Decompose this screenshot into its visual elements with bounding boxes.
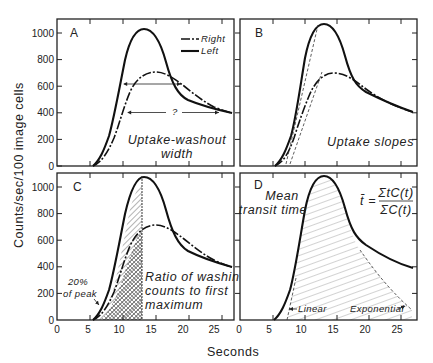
- x-tick-label: 10: [295, 324, 307, 335]
- y-tick-label: 400: [37, 261, 54, 272]
- legend: Right Left: [181, 33, 225, 56]
- y-tick-label: 1000: [32, 182, 55, 193]
- y-tick-label: 1000: [32, 28, 55, 39]
- y-tick-label: 600: [37, 235, 54, 246]
- panel-d-label: D: [254, 178, 263, 192]
- figure-canvas: Counts/sec/100 image cells Seconds 0 200…: [0, 0, 433, 363]
- panel-b-caption: Uptake slopes: [327, 135, 414, 149]
- mean-transit-formula: t̄ = ΣtC(t) ΣC(t): [360, 186, 414, 217]
- panel-b: B Uptake slopes: [235, 19, 417, 166]
- panel-a-label: A: [70, 26, 78, 40]
- y-tick-label: 800: [37, 54, 54, 65]
- x-tick-label: 5: [266, 324, 272, 335]
- formula-numerator: ΣtC(t): [377, 186, 413, 200]
- pct-peak-label: of peak: [63, 288, 98, 299]
- x-tick-label: 20: [359, 324, 371, 335]
- panel-d-caption: transit time: [239, 203, 307, 217]
- y-tick-label: 200: [37, 134, 54, 145]
- formula-denominator: ΣC(t): [379, 203, 411, 217]
- y-tick-label: 400: [37, 107, 54, 118]
- unknown-width-mark: ?: [172, 106, 178, 117]
- panel-d-caption: Mean: [265, 189, 299, 203]
- panel-a: 0 200 400 600 800 1000 A ? Right: [32, 19, 234, 172]
- x-tick-label: 15: [145, 324, 157, 335]
- x-tick-label: 5: [85, 324, 91, 335]
- x-tick-label: 0: [54, 324, 60, 335]
- y-tick-label: 800: [37, 208, 54, 219]
- y-tick-label: 600: [37, 81, 54, 92]
- panel-c-caption: maximum: [145, 298, 203, 312]
- pct-peak-label: 20%: [67, 276, 88, 287]
- panel-b-label: B: [255, 26, 263, 40]
- panel-a-caption: Uptake-washout: [128, 133, 227, 147]
- panel-d: 0 5 10 15 20 25 D Mean transit time t̄ =…: [235, 173, 417, 335]
- panel-c-caption: Ratio of washin: [145, 270, 239, 284]
- panel-c-label: C: [73, 180, 82, 194]
- x-tick-label: 20: [177, 324, 189, 335]
- panel-c: 0 200 400 600 800 1000 0 5 10 15 20 25 C…: [32, 173, 240, 335]
- x-tick-label: 15: [327, 324, 339, 335]
- x-tick-label: 25: [391, 324, 403, 335]
- linear-label: Linear: [298, 303, 327, 314]
- x-tick-label: 25: [208, 324, 220, 335]
- panel-c-caption: counts to first: [145, 284, 228, 298]
- legend-left-label: Left: [201, 45, 218, 56]
- x-axis-title: Seconds: [207, 345, 259, 359]
- y-tick-label: 0: [48, 161, 54, 172]
- formula-lhs: t̄ =: [360, 194, 376, 208]
- left-uptake-tangent: [286, 25, 318, 164]
- x-tick-label: 0: [236, 324, 242, 335]
- x-tick-label: 10: [113, 324, 125, 335]
- panel-a-caption: width: [161, 147, 193, 161]
- exponential-label: Exponential: [350, 303, 405, 314]
- y-axis-title: Counts/sec/100 image cells: [12, 82, 26, 248]
- pct-peak-arrow: [94, 299, 99, 305]
- legend-right-label: Right: [201, 33, 225, 44]
- y-tick-label: 200: [37, 288, 54, 299]
